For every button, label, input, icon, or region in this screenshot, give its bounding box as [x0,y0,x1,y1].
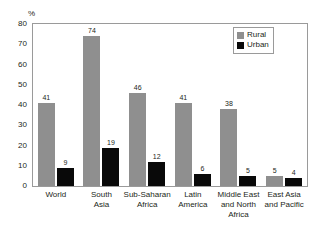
chart-figure: % 80706050403020100 4197419461241638554 … [0,0,321,232]
legend-swatch-rural-icon [237,32,244,39]
bar-group: 7419 [79,24,125,186]
bar-rural[interactable] [175,103,192,186]
bar-urban[interactable] [239,176,256,186]
chart-legend: Rural Urban [233,27,274,54]
bar-value-label: 74 [88,27,96,34]
bar-value-label: 19 [107,139,115,146]
bar-urban[interactable] [102,148,119,186]
y-tick-label: 40 [18,101,27,109]
legend-swatch-urban-icon [237,42,244,49]
bar-group: 419 [33,24,79,186]
legend-label-urban: Urban [247,41,269,49]
bar-urban[interactable] [194,174,211,186]
y-tick-label: 0 [23,182,27,190]
bar-urban[interactable] [57,168,74,186]
bar-value-label: 41 [179,94,187,101]
bar-value-label: 6 [200,165,204,172]
x-category-line: and Pacific [255,200,313,210]
y-tick-label: 50 [18,81,27,89]
bar-rural[interactable] [129,93,146,186]
y-tick-label: 30 [18,121,27,129]
bar-urban[interactable] [148,162,165,186]
bar-value-label: 12 [153,153,161,160]
bar-value-label: 41 [42,94,50,101]
legend-label-rural: Rural [247,31,266,39]
y-tick-label: 60 [18,61,27,69]
legend-item-urban[interactable]: Urban [237,40,269,50]
bar-rural[interactable] [220,109,237,186]
bar-urban[interactable] [285,178,302,186]
x-category-line: Africa [210,210,268,220]
bar-rural[interactable] [83,36,100,186]
x-axis: WorldSouthAsiaSub-SaharanAfricaLatinAmer… [33,190,307,232]
bar-value-label: 5 [273,167,277,174]
x-category-label: East Asiaand Pacific [255,190,313,210]
x-category-line: East Asia [255,190,313,200]
y-axis-unit-label: % [28,9,35,18]
bar-value-label: 46 [134,84,142,91]
bar-rural[interactable] [38,103,55,186]
bar-group: 416 [170,24,216,186]
bar-value-label: 5 [246,167,250,174]
bar-value-label: 9 [63,159,67,166]
bar-value-label: 38 [225,100,233,107]
bar-group: 4612 [124,24,170,186]
bar-rural[interactable] [266,176,283,186]
y-tick-label: 10 [18,162,27,170]
y-tick-label: 70 [18,40,27,48]
legend-item-rural[interactable]: Rural [237,30,269,40]
bar-value-label: 4 [292,169,296,176]
y-axis: 80706050403020100 [0,23,32,187]
y-tick-label: 80 [18,20,27,28]
y-tick-label: 20 [18,142,27,150]
